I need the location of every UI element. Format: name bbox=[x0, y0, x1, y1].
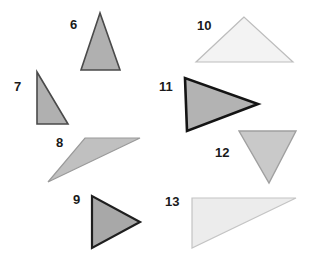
triangle-9-label: 9 bbox=[73, 192, 80, 207]
shapes-canvas: 678910111213 bbox=[0, 0, 317, 264]
triangle-8-label: 8 bbox=[56, 135, 63, 150]
triangle-11-label: 11 bbox=[159, 79, 173, 94]
triangle-7-label: 7 bbox=[14, 79, 21, 94]
triangle-10-label: 10 bbox=[197, 18, 211, 33]
triangles-figure: 678910111213 bbox=[0, 0, 317, 264]
triangle-13-label: 13 bbox=[165, 194, 179, 209]
triangle-6-label: 6 bbox=[70, 17, 77, 32]
triangle-12-label: 12 bbox=[215, 145, 229, 160]
